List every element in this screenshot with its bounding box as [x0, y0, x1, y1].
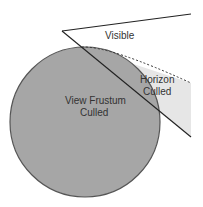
horizon-culled-label-line2: Culled — [143, 86, 171, 97]
horizon-culling-diagram: Visible Horizon Culled View Frustum Cull… — [0, 0, 203, 207]
frustum-culled-label-line2: Culled — [80, 107, 108, 118]
visible-label: Visible — [105, 30, 135, 41]
frustum-top-edge — [62, 14, 191, 31]
frustum-culled-label-line1: View Frustum — [65, 95, 126, 106]
globe-circle — [10, 47, 160, 197]
horizon-culled-label-line1: Horizon — [140, 74, 174, 85]
